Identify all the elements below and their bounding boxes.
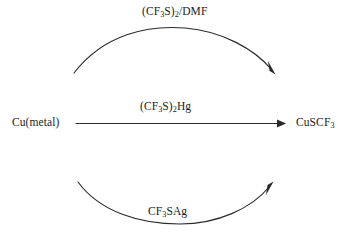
middle-straight-arrow: [76, 120, 286, 128]
middle-reagent-part-3: Hg: [177, 100, 191, 112]
top-reagent-part-1: (CF: [142, 5, 160, 17]
bottom-reagent-part-2: SAg: [166, 205, 187, 217]
reactant-label: Cu(metal): [12, 117, 60, 131]
top-arrow-shaft: [74, 27, 271, 73]
top-reagent-part-3: /DMF: [179, 5, 208, 17]
reactant-formula-text: Cu(metal): [12, 116, 60, 128]
top-reagent-part-2: S): [164, 5, 174, 17]
product-formula-sub: 3: [330, 121, 334, 130]
bottom-reagent-part-1: CF: [148, 205, 162, 217]
middle-arrow-reagent-label: (CF3S)2Hg: [140, 101, 191, 115]
middle-reagent-part-2: S): [162, 100, 172, 112]
top-arrow-head: [265, 61, 276, 75]
top-curved-arrow: [74, 27, 276, 74]
product-label: CuSCF3: [296, 117, 335, 131]
bottom-arrow-reagent-label: CF3SAg: [148, 206, 187, 220]
product-formula-text: CuSCF: [296, 116, 330, 128]
middle-arrow-head: [277, 120, 286, 128]
middle-reagent-part-1: (CF: [140, 100, 158, 112]
top-arrow-reagent-label: (CF3S)2/DMF: [142, 6, 207, 20]
